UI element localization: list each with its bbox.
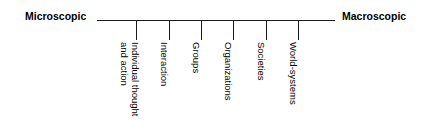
tick-label-line: Groups	[191, 42, 202, 73]
tick-label: Interaction	[159, 42, 170, 86]
tick-label: World-systems	[288, 42, 299, 105]
tick-label: Groups	[191, 42, 202, 73]
tick-mark	[136, 20, 137, 40]
tick-label-line: World-systems	[288, 42, 299, 105]
tick-label: Societies	[256, 42, 267, 81]
tick-label-line: Interaction	[159, 42, 170, 86]
tick-mark	[233, 20, 234, 40]
tick-label-line: Individual thought	[130, 42, 141, 132]
tick-mark	[298, 20, 299, 40]
micro-macro-continuum-figure: Microscopic Macroscopic Individual thoug…	[0, 0, 429, 139]
tick-label: Organizations	[223, 42, 234, 101]
tick-label-line: and action	[119, 42, 130, 132]
tick-mark	[266, 20, 267, 40]
tick-label: Individual thoughtand action	[119, 42, 140, 132]
tick-label-line: Organizations	[223, 42, 234, 101]
tick-mark	[201, 20, 202, 40]
tick-mark	[169, 20, 170, 40]
tick-label-line: Societies	[256, 42, 267, 81]
tick-group: Individual thoughtand actionInteractionG…	[0, 0, 429, 139]
